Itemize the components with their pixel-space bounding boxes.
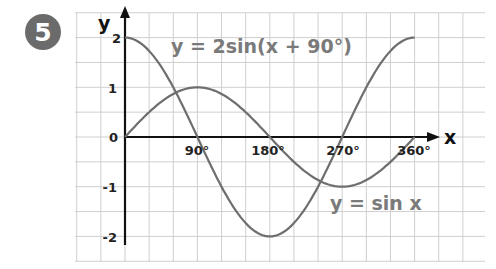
equation-label-top: y = 2sin(x + 90°) [171,35,352,57]
x-tick-360: 360° [397,143,431,158]
x-axis-arrow-icon [427,132,440,142]
x-tick-180: 180° [251,143,285,158]
equation-label-bottom: y = sin x [330,192,422,214]
x-tick-90: 90° [185,143,210,158]
y-tick-2: 2 [112,31,121,46]
y-tick-0: 0 [109,130,118,145]
y-tick-minus-2: -2 [103,230,117,245]
question-number-badge: 5 [25,14,61,50]
x-axis-label: x [444,126,456,148]
badge-number: 5 [34,18,51,47]
y-tick-minus-1: -1 [103,180,117,195]
y-axis-arrow-icon [120,6,130,18]
x-tick-270: 270° [326,143,360,158]
y-tick-1: 1 [108,81,117,96]
y-axis-label: y [98,12,111,34]
chart: 5 y x 2 1 0 -1 -2 90° 180° 270° 360° y =… [0,0,496,269]
